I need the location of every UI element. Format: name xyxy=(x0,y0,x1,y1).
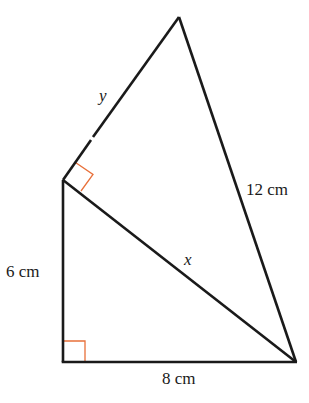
right-angle-marker-bottom-left xyxy=(63,341,85,362)
geometry-diagram: y 12 cm x 6 cm 8 cm xyxy=(0,0,309,403)
right-angle-marker-left-vertex xyxy=(76,163,94,192)
label-12cm: 12 cm xyxy=(246,180,288,199)
side-y-upper xyxy=(93,17,179,137)
label-8cm: 8 cm xyxy=(162,369,196,388)
label-y: y xyxy=(97,86,107,105)
side-x xyxy=(63,180,296,362)
label-x: x xyxy=(183,250,192,269)
label-6cm: 6 cm xyxy=(6,262,40,281)
side-y-lower xyxy=(63,140,91,180)
